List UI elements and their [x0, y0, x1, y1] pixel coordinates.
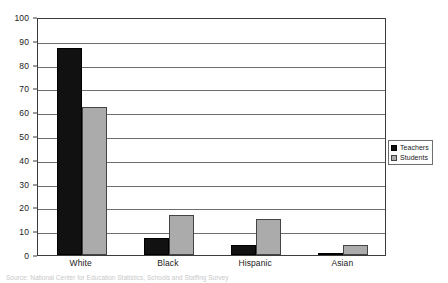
y-tick-label: 80 — [19, 61, 29, 70]
y-axis: 0102030405060708090100 — [0, 0, 37, 283]
chart-legend: Teachers Students — [388, 140, 433, 165]
y-tick-label: 70 — [19, 85, 29, 94]
bar-group — [318, 19, 368, 255]
y-tick-label: 10 — [19, 228, 29, 237]
bar-teachers-black — [144, 238, 169, 255]
x-tick-label: Asian — [331, 258, 353, 269]
y-tick-label: 90 — [19, 37, 29, 46]
x-tick-label: Black — [157, 258, 178, 269]
plot-area — [37, 18, 386, 256]
bar-teachers-white — [57, 48, 82, 255]
bar-teachers-hispanic — [231, 245, 256, 255]
legend-swatch-students-icon — [391, 155, 397, 161]
bar-chart-figure: 0102030405060708090100 WhiteBlackHispani… — [0, 0, 448, 283]
y-tick-label: 0 — [24, 252, 29, 261]
source-note: Source: National Center for Education St… — [6, 274, 436, 282]
legend-label-students: Students — [400, 154, 428, 162]
x-tick-label: White — [70, 258, 92, 269]
y-tick-label: 100 — [15, 14, 29, 23]
bar-teachers-asian — [318, 253, 343, 255]
y-tick-label: 20 — [19, 204, 29, 213]
legend-item-teachers: Teachers — [391, 143, 429, 152]
legend-item-students: Students — [391, 153, 429, 162]
legend-swatch-teachers-icon — [391, 145, 397, 151]
bar-students-hispanic — [256, 219, 281, 255]
bar-students-black — [169, 215, 194, 255]
x-axis: WhiteBlackHispanicAsian — [37, 258, 386, 272]
bar-group — [57, 19, 107, 255]
bar-students-white — [82, 107, 107, 255]
bar-group — [144, 19, 194, 255]
y-tick-label: 50 — [19, 133, 29, 142]
legend-label-teachers: Teachers — [400, 144, 429, 152]
y-tick-label: 40 — [19, 156, 29, 165]
y-tick-label: 60 — [19, 109, 29, 118]
x-tick-label: Hispanic — [238, 258, 271, 269]
y-tick-label: 30 — [19, 180, 29, 189]
bar-group — [231, 19, 281, 255]
bar-students-asian — [343, 245, 368, 255]
